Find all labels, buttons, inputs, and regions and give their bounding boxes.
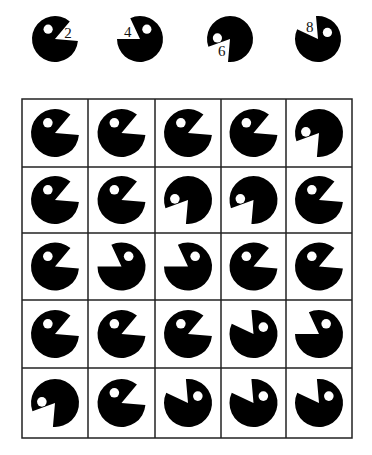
grid-cell-r3-c1 xyxy=(31,242,79,290)
grid-cell-r5-c4 xyxy=(230,379,278,427)
pacman-body xyxy=(295,242,343,290)
grid-cell-r3-c4 xyxy=(230,242,278,290)
pacman-eye xyxy=(259,391,269,401)
pacman-body xyxy=(230,379,278,427)
grid-cell-r4-c4 xyxy=(230,310,278,358)
legend-item-6: 6 xyxy=(207,16,253,62)
pacman-eye xyxy=(176,118,186,128)
pacman-eye xyxy=(43,319,53,329)
legend-number-label: 6 xyxy=(218,43,226,59)
pacman-eye xyxy=(242,118,252,128)
grid-cell-r5-c5 xyxy=(295,379,343,427)
pacman-eye xyxy=(110,118,120,128)
pacman-body xyxy=(31,109,79,157)
pacman-eye xyxy=(321,319,331,329)
pacman-body xyxy=(98,176,146,224)
legend-number-label: 8 xyxy=(306,19,314,35)
grid-cell-r5-c1 xyxy=(31,379,79,427)
grid-cell-r2-c1 xyxy=(31,176,79,224)
legend-item-4: 4 xyxy=(117,16,163,62)
pacman-eye xyxy=(190,251,200,261)
legend: 2468 xyxy=(32,16,341,62)
grid-cell-r4-c3 xyxy=(164,310,212,358)
pacman-eye xyxy=(213,33,222,42)
grid-cell-r3-c5 xyxy=(295,242,343,290)
pacman-body xyxy=(295,310,343,358)
pacman-eye xyxy=(193,391,203,401)
pacman-eye xyxy=(110,388,120,398)
legend-item-2: 2 xyxy=(32,16,78,62)
grid-cell-r2-c5 xyxy=(295,176,343,224)
pacman-body xyxy=(31,310,79,358)
grid-cell-r5-c3 xyxy=(164,379,212,427)
grid-cell-r1-c4 xyxy=(230,109,278,157)
pacman-body xyxy=(164,109,212,157)
grid-cell-r1-c2 xyxy=(98,109,146,157)
pacman-body xyxy=(98,310,146,358)
pacman-eye xyxy=(43,185,53,195)
pacman-eye xyxy=(110,319,120,329)
grid-cell-r3-c3 xyxy=(164,243,212,291)
grid-cell-r4-c1 xyxy=(31,310,79,358)
pacman-eye xyxy=(110,185,120,195)
grid-cell-r2-c2 xyxy=(98,176,146,224)
pacman-body xyxy=(230,109,278,157)
grid-cell-r4-c2 xyxy=(98,310,146,358)
pacman-eye xyxy=(43,118,53,128)
pacman-body xyxy=(31,242,79,290)
legend-number-label: 2 xyxy=(64,25,72,41)
pacman-body xyxy=(31,176,79,224)
symbol-grid xyxy=(22,99,352,438)
pacman-body xyxy=(164,310,212,358)
pacman-eye xyxy=(37,397,47,407)
pacman-body xyxy=(230,310,278,358)
pacman-eye xyxy=(44,25,53,34)
pacman-eye xyxy=(307,251,317,261)
pacman-eye xyxy=(242,251,252,261)
pacman-body xyxy=(98,379,146,427)
pacman-body xyxy=(295,16,341,62)
grid-cell-r2-c3 xyxy=(164,176,212,224)
grid-cell-r2-c4 xyxy=(230,176,278,224)
grid-cell-r1-c3 xyxy=(164,109,212,157)
pacman-eye xyxy=(236,194,246,204)
pacman-body xyxy=(98,109,146,157)
grid-cell-r1-c1 xyxy=(31,109,79,157)
pacman-eye xyxy=(170,194,180,204)
grid-cell-r3-c2 xyxy=(98,243,146,291)
pacman-eye xyxy=(142,25,151,34)
pacman-eye xyxy=(176,319,186,329)
pacman-eye xyxy=(323,28,332,37)
pacman-eye xyxy=(301,127,311,137)
pacman-body xyxy=(295,176,343,224)
pacman-body xyxy=(164,379,212,427)
grid-cell-r4-c5 xyxy=(295,310,343,358)
grid-cell-r1-c5 xyxy=(295,109,343,157)
pacman-eye xyxy=(259,322,269,332)
legend-item-8: 8 xyxy=(295,16,341,62)
pacman-eye xyxy=(124,251,134,261)
pacman-body xyxy=(164,243,212,291)
pacman-body xyxy=(98,243,146,291)
pacman-eye xyxy=(307,185,317,195)
legend-number-label: 4 xyxy=(124,24,132,40)
pacman-eye xyxy=(324,391,334,401)
pacman-eye xyxy=(43,251,53,261)
pacman-body xyxy=(295,379,343,427)
pacman-body xyxy=(230,242,278,290)
puzzle-figure: 2468 xyxy=(0,0,372,455)
grid-cell-r5-c2 xyxy=(98,379,146,427)
